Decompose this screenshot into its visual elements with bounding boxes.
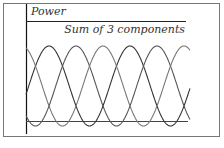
wave-group <box>26 46 190 126</box>
wave-component-3 <box>26 46 190 126</box>
wave-component-2 <box>26 46 190 126</box>
wave-component-1 <box>26 46 190 126</box>
power-chart: Power Sum of 3 components <box>0 0 224 148</box>
y-axis-label: Power <box>30 5 67 18</box>
sum-annotation: Sum of 3 components <box>64 23 185 36</box>
